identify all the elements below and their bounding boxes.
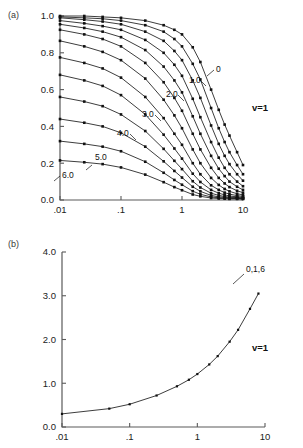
curve-label-leader bbox=[130, 134, 136, 140]
data-point-marker bbox=[155, 394, 157, 396]
data-point-marker bbox=[101, 25, 104, 28]
data-point-marker bbox=[210, 167, 213, 170]
data-point-marker bbox=[228, 173, 231, 176]
curve-label-leader bbox=[207, 70, 214, 76]
data-point-marker bbox=[59, 159, 62, 162]
data-point-marker bbox=[217, 167, 220, 170]
data-curve bbox=[60, 160, 243, 199]
data-point-marker bbox=[210, 141, 213, 144]
data-point-marker bbox=[144, 30, 147, 33]
data-point-marker bbox=[101, 163, 104, 166]
data-point-marker bbox=[249, 308, 251, 310]
data-point-marker bbox=[199, 186, 202, 189]
panel-b-plot: 0.01.02.03.04.0.01.11100,1,6 bbox=[0, 224, 303, 448]
data-point-marker bbox=[120, 17, 123, 20]
data-point-marker bbox=[83, 33, 86, 36]
data-point-marker bbox=[210, 88, 213, 91]
data-point-marker bbox=[236, 151, 239, 154]
data-point-marker bbox=[223, 175, 226, 178]
data-point-marker bbox=[191, 193, 194, 196]
data-point-marker bbox=[61, 413, 63, 415]
data-point-marker bbox=[101, 105, 104, 108]
data-point-marker bbox=[120, 76, 123, 79]
data-point-marker bbox=[188, 379, 190, 381]
data-point-marker bbox=[191, 172, 194, 175]
data-point-marker bbox=[129, 403, 131, 405]
data-point-marker bbox=[101, 51, 104, 54]
data-point-marker bbox=[108, 408, 110, 410]
data-point-marker bbox=[199, 190, 202, 193]
y-tick-label: 0.0 bbox=[43, 421, 56, 432]
data-point-marker bbox=[83, 45, 86, 48]
data-point-marker bbox=[83, 161, 86, 164]
y-tick-label: 0.2 bbox=[41, 158, 54, 169]
curve-label-leader bbox=[54, 176, 60, 181]
data-point-marker bbox=[173, 50, 176, 53]
data-point-marker bbox=[83, 100, 86, 103]
data-point-marker bbox=[162, 98, 165, 101]
data-point-marker bbox=[59, 118, 62, 121]
data-point-marker bbox=[257, 292, 259, 294]
data-point-marker bbox=[223, 167, 226, 170]
data-point-marker bbox=[191, 180, 194, 183]
data-point-marker bbox=[162, 52, 165, 55]
data-point-marker bbox=[173, 186, 176, 189]
data-point-marker bbox=[173, 132, 176, 135]
data-point-marker bbox=[173, 147, 176, 150]
data-point-marker bbox=[217, 156, 220, 159]
data-point-marker bbox=[223, 123, 226, 126]
data-curve bbox=[60, 57, 243, 196]
data-point-marker bbox=[228, 198, 231, 201]
data-point-marker bbox=[144, 24, 147, 27]
data-point-marker bbox=[181, 176, 184, 179]
data-point-marker bbox=[59, 140, 62, 143]
data-point-marker bbox=[173, 38, 176, 41]
data-point-marker bbox=[210, 124, 213, 127]
curve-label: 0 bbox=[216, 64, 221, 74]
y-tick-label: 4.0 bbox=[43, 246, 56, 257]
data-point-marker bbox=[217, 143, 220, 146]
data-point-marker bbox=[59, 19, 62, 22]
figure-container: (a) v=1 0.00.20.40.60.81.0.01.111001.02.… bbox=[0, 0, 303, 448]
data-point-marker bbox=[210, 189, 213, 192]
curve-label: 1.0 bbox=[189, 75, 201, 85]
data-point-marker bbox=[120, 166, 123, 169]
data-point-marker bbox=[83, 22, 86, 25]
data-point-marker bbox=[237, 329, 239, 331]
data-point-marker bbox=[228, 163, 231, 166]
y-tick-label: 3.0 bbox=[43, 290, 56, 301]
curve-label: 5.0 bbox=[95, 152, 107, 162]
data-curve bbox=[60, 18, 243, 181]
data-point-marker bbox=[83, 121, 86, 124]
data-point-marker bbox=[191, 115, 194, 118]
y-tick-label: 2.0 bbox=[43, 334, 56, 345]
data-point-marker bbox=[162, 181, 165, 184]
data-point-marker bbox=[223, 182, 226, 185]
data-point-marker bbox=[199, 61, 202, 64]
data-point-marker bbox=[191, 98, 194, 101]
data-curve bbox=[60, 119, 243, 198]
curve-label-leader bbox=[178, 95, 184, 101]
data-point-marker bbox=[173, 79, 176, 82]
data-point-marker bbox=[83, 18, 86, 21]
data-point-marker bbox=[236, 164, 239, 167]
data-point-marker bbox=[173, 63, 176, 66]
data-point-marker bbox=[181, 183, 184, 186]
curve-label: 0,1,6 bbox=[246, 264, 265, 274]
data-point-marker bbox=[181, 45, 184, 48]
data-point-marker bbox=[199, 97, 202, 100]
data-point-marker bbox=[162, 117, 165, 120]
data-point-marker bbox=[223, 141, 226, 144]
data-curve bbox=[60, 16, 243, 165]
data-point-marker bbox=[144, 145, 147, 148]
data-point-marker bbox=[59, 56, 62, 59]
data-point-marker bbox=[162, 160, 165, 163]
data-point-marker bbox=[191, 162, 194, 165]
data-point-marker bbox=[144, 130, 147, 133]
data-point-marker bbox=[181, 59, 184, 62]
data-point-marker bbox=[120, 23, 123, 26]
data-point-marker bbox=[210, 197, 213, 200]
data-point-marker bbox=[228, 186, 231, 189]
y-tick-label: 0.4 bbox=[41, 121, 54, 132]
curve-label-leader bbox=[155, 115, 161, 121]
